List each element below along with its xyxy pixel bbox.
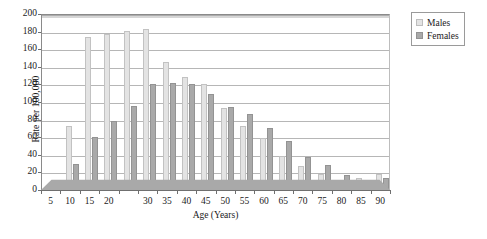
legend-swatch-males-icon [416,19,423,26]
y-axis-tick-label: 0 [7,185,37,195]
bar-group [337,15,352,190]
bar-males-10 [66,126,72,190]
y-axis-tick-labels: 020406080100120140160180200 [0,14,37,190]
y-axis-tick-label: 60 [7,132,37,142]
bar-males-55 [240,126,246,190]
bar-group [356,15,371,190]
bar-females-15 [92,137,98,190]
bar-males-70 [298,166,304,190]
bar-females-60 [267,128,273,190]
y-axis-tick-label: 40 [7,150,37,160]
bar-group [46,15,61,190]
bar-group [201,15,216,190]
bar-groups [42,15,389,190]
x-axis-tick-mark [41,190,42,194]
x-axis-tick-mark [371,190,372,194]
bar-females-45 [208,94,214,190]
x-axis-tick-mark [293,190,294,194]
x-axis-tick-label: 20 [97,196,121,207]
x-axis-tick-mark [351,190,352,194]
x-axis-title: Age (Years) [41,210,390,220]
x-axis-tick-mark [119,190,120,194]
legend-item-males[interactable]: Males [416,16,459,29]
bar-group [221,15,236,190]
legend: MalesFemales [411,12,465,46]
bar-males-60 [260,138,266,190]
bar-chart-figure: Rate per 100,000 02040608010012014016018… [0,0,487,239]
bar-group [318,15,333,190]
bar-group [260,15,275,190]
bar-males-25 [124,31,130,190]
bar-group [143,15,158,190]
bar-females-10 [73,164,79,190]
bar-group [124,15,139,190]
bar-females-80 [344,175,350,190]
legend-item-females[interactable]: Females [416,29,459,42]
x-axis-tick-mark [235,190,236,194]
bar-group [376,15,391,190]
x-axis-tick-mark [138,190,139,194]
x-axis-tick-mark [99,190,100,194]
bar-males-45 [201,84,207,190]
bar-females-55 [247,114,253,190]
bar-females-65 [286,141,292,190]
bar-females-70 [305,157,311,190]
x-axis-tick-mark [157,190,158,194]
legend-swatch-females-icon [416,32,423,39]
bar-females-40 [189,84,195,190]
x-axis-tick-mark [216,190,217,194]
legend-label: Males [427,18,450,28]
bar-group [104,15,119,190]
bar-males-65 [279,156,285,190]
bar-females-30 [150,84,156,190]
x-axis-tick-label: 90 [368,196,392,207]
bar-males-30 [143,29,149,190]
y-axis-tick-label: 180 [7,27,37,37]
x-axis-tick-mark [196,190,197,194]
y-axis-tick-label: 120 [7,79,37,89]
bar-group [182,15,197,190]
bar-females-50 [228,107,234,190]
bar-group [163,15,178,190]
bar-males-20 [104,34,110,190]
bar-group [298,15,313,190]
bar-females-20 [111,121,117,190]
x-axis-tick-mark [312,190,313,194]
plot-area [41,14,390,190]
bar-group [240,15,255,190]
bar-females-75 [325,165,331,190]
x-axis-tick-mark [177,190,178,194]
y-axis-tick-label: 200 [7,9,37,19]
x-axis-tick-mark [332,190,333,194]
x-axis-tick-mark [80,190,81,194]
bar-males-35 [163,62,169,190]
y-axis-tick-label: 80 [7,115,37,125]
bar-group [279,15,294,190]
bar-males-15 [85,37,91,190]
x-axis-tick-mark [390,190,391,194]
y-axis-tick-label: 160 [7,44,37,54]
bar-females-35 [170,83,176,190]
legend-label: Females [427,31,459,41]
y-axis-tick-label: 20 [7,167,37,177]
x-axis-tick-mark [254,190,255,194]
bar-males-90 [376,174,382,190]
bar-males-50 [221,108,227,190]
x-axis-tick-mark [274,190,275,194]
y-axis-tick-label: 140 [7,62,37,72]
bar-females-25 [131,106,137,190]
bar-group [85,15,100,190]
bar-group [66,15,81,190]
bar-males-75 [318,174,324,190]
bar-males-40 [182,77,188,190]
x-axis-tick-mark [60,190,61,194]
y-axis-tick-label: 100 [7,97,37,107]
